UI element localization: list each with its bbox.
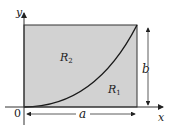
area-diagram: y x 0 R2 R1 b a [0, 0, 173, 132]
origin-label: 0 [14, 107, 21, 120]
width-label-a: a [79, 107, 86, 121]
x-axis-label: x [158, 111, 165, 124]
y-axis-label: y [15, 6, 23, 19]
height-label-b: b [142, 62, 150, 76]
